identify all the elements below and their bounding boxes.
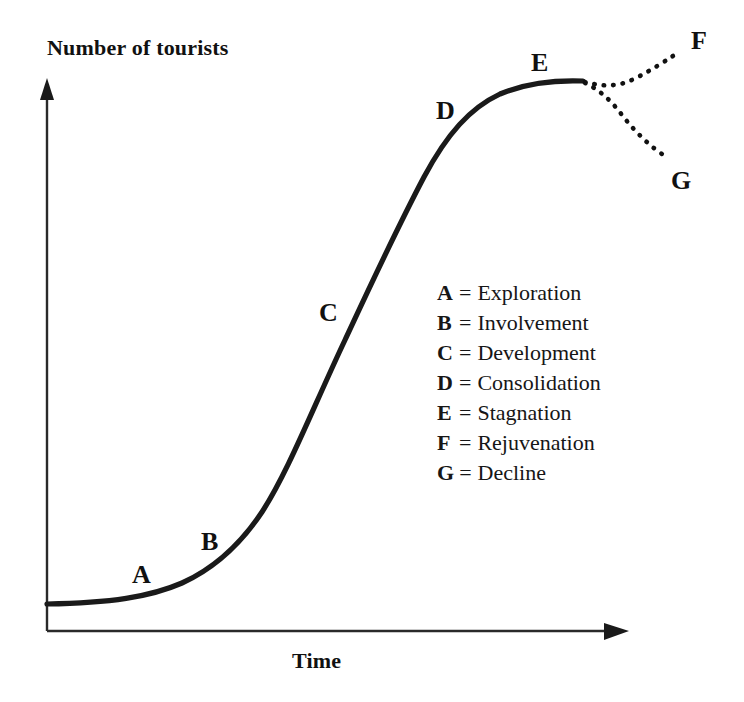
- legend-equals: =: [454, 428, 477, 458]
- curve-label-f: F: [691, 28, 707, 54]
- legend-row: E=Stagnation: [437, 398, 667, 428]
- curve-label-g: G: [671, 168, 691, 194]
- legend-name: Involvement: [477, 310, 588, 335]
- legend: A=Exploration B=Involvement C=Developmen…: [437, 278, 667, 488]
- legend-name: Decline: [478, 460, 546, 485]
- legend-name: Exploration: [477, 280, 581, 305]
- legend-equals: =: [454, 278, 477, 308]
- legend-row: F=Rejuvenation: [437, 428, 667, 458]
- curve-label-b: B: [201, 529, 218, 555]
- curve-label-e: E: [531, 50, 548, 76]
- x-axis-arrowhead: [604, 623, 629, 640]
- curve-label-a: A: [132, 562, 151, 588]
- legend-key: C: [437, 338, 454, 368]
- legend-key: B: [437, 308, 454, 338]
- legend-key: F: [437, 428, 454, 458]
- legend-key: E: [437, 398, 454, 428]
- legend-equals: =: [454, 458, 477, 488]
- legend-equals: =: [454, 338, 477, 368]
- curve-label-c: C: [319, 300, 338, 326]
- y-axis-title: Number of tourists: [47, 35, 229, 61]
- rejuvenation-branch-dotted: [585, 56, 673, 85]
- legend-equals: =: [454, 398, 477, 428]
- curve-label-d: D: [436, 98, 455, 124]
- legend-row: G=Decline: [437, 458, 667, 488]
- legend-row: A=Exploration: [437, 278, 667, 308]
- legend-key: A: [437, 278, 454, 308]
- decline-branch-dotted: [585, 83, 665, 156]
- legend-equals: =: [454, 308, 477, 338]
- y-axis-arrowhead: [40, 78, 54, 100]
- legend-name: Development: [477, 340, 596, 365]
- legend-key: G: [437, 458, 454, 488]
- legend-name: Consolidation: [477, 370, 600, 395]
- legend-equals: =: [454, 368, 477, 398]
- x-axis-title: Time: [292, 648, 341, 674]
- legend-name: Rejuvenation: [477, 430, 594, 455]
- legend-name: Stagnation: [477, 400, 571, 425]
- legend-key: D: [437, 368, 454, 398]
- legend-row: B=Involvement: [437, 308, 667, 338]
- legend-row: D=Consolidation: [437, 368, 667, 398]
- legend-row: C=Development: [437, 338, 667, 368]
